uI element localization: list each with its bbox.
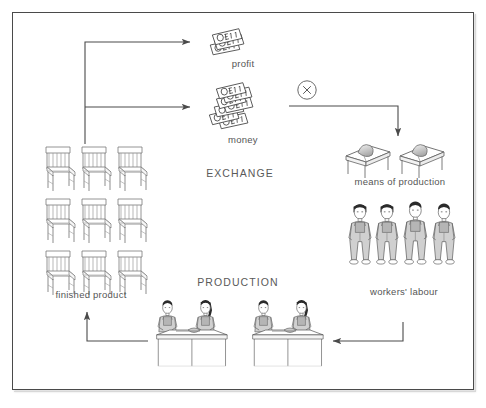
label-money: money [0, 134, 486, 145]
label-finished-product: finished product [14, 289, 168, 300]
money-banknote-stack-icon [209, 82, 253, 128]
production-scene-icon [157, 300, 324, 366]
diagram-canvas: profit money EXCHANGE means of productio… [0, 0, 486, 408]
label-workers-labour: workers' labour [336, 286, 472, 297]
label-means-of-production: means of production [330, 176, 470, 187]
multiply-symbol-icon [298, 81, 316, 99]
finished-product-chairs-icon [46, 147, 147, 295]
means-of-production-icon [346, 145, 444, 178]
workers-labour-icon [349, 202, 455, 265]
profit-banknote-stack-icon [210, 28, 244, 54]
label-exchange: EXCHANGE [178, 168, 302, 179]
label-production: PRODUCTION [168, 277, 308, 288]
label-profit: profit [0, 58, 486, 69]
